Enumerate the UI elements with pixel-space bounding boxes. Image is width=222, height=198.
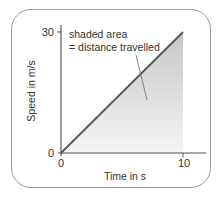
x-axis-label: Time in s <box>104 170 146 182</box>
y-axis-label: Speed in m/s <box>25 60 37 121</box>
x-tick-label-10: 10 <box>178 157 190 169</box>
y-tick-label-30: 30 <box>42 26 54 38</box>
speed-time-chart: 30 0 0 10 Time in s Speed in m/s shaded … <box>0 0 222 198</box>
y-tick-label-0: 0 <box>48 147 54 159</box>
x-tick-label-0: 0 <box>58 157 64 169</box>
annotation-line-2: = distance travelled <box>69 41 160 53</box>
annotation-line-1: shaded area <box>69 28 128 40</box>
